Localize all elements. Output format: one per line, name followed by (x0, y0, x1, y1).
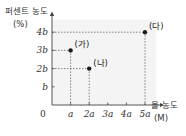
x-tick-label: 5a (139, 109, 150, 119)
x-tick-label: 2a (83, 109, 95, 119)
y-tick-label: 2b (36, 64, 49, 74)
data-point (87, 66, 91, 70)
x-tick-label: a (68, 109, 73, 119)
y-axis-label: 퍼센트 농도 (5, 6, 48, 16)
x-tick-label: 3a (102, 109, 113, 119)
chart: a2a3a4a5ab2b3b4b (가)(나)(다) 퍼센트 농도 (%) 몰 … (0, 0, 186, 136)
data-point (68, 48, 72, 52)
x-axis-label: 몰 농도 (151, 100, 178, 110)
y-tick-label: 3b (37, 45, 49, 55)
x-tick-label: 4a (120, 109, 132, 119)
data-point-label: (나) (93, 58, 108, 68)
x-axis-unit: (M) (154, 113, 168, 123)
data-point-label: (다) (149, 21, 164, 31)
origin-label: 0 (40, 109, 46, 119)
data-point (143, 30, 147, 34)
y-tick-label: b (42, 82, 48, 92)
y-tick-label: 4b (36, 27, 49, 37)
data-point-label: (가) (75, 39, 90, 49)
y-axis-unit: (%) (13, 19, 28, 29)
